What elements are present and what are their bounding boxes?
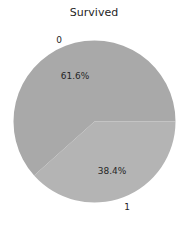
slice-pct-0: 61.6% [61, 71, 90, 81]
slice-pct-1: 38.4% [98, 166, 127, 176]
slice-label-1: 1 [124, 202, 130, 212]
chart-title: Survived [70, 6, 118, 19]
slice-label-0: 0 [56, 35, 62, 45]
pie-slices [14, 41, 176, 203]
pie-chart: Survived 0 1 61.6% 38.4% [0, 0, 187, 226]
